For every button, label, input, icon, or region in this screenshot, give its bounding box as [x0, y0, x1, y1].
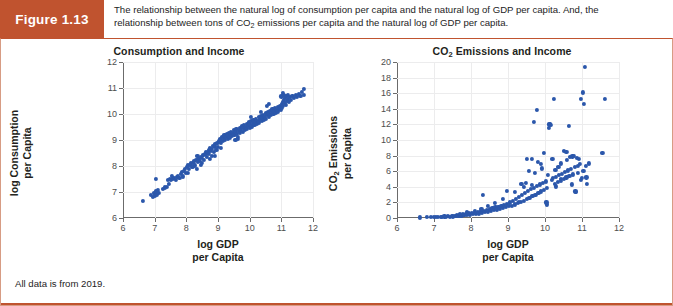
scatter-point [186, 171, 190, 175]
gridline-vertical [619, 62, 620, 218]
y-axis-tick [393, 171, 397, 172]
scatter-point [302, 86, 306, 90]
scatter-point [567, 124, 571, 128]
scatter-point [501, 197, 505, 201]
y-axis-tick-label: 14 [381, 104, 391, 114]
y-axis-tick-label: 7 [112, 187, 117, 197]
y-axis-tick-label: 10 [107, 109, 117, 119]
y-axis-tick-label: 2 [386, 197, 391, 207]
y-axis-tick [119, 114, 123, 115]
scatter-point [301, 93, 305, 97]
x-axis-title-right-line1: log GDP [487, 238, 528, 250]
y-axis-tick-label: 12 [381, 119, 391, 129]
scatter-point [218, 146, 222, 150]
scatter-point [540, 166, 544, 170]
x-axis-tick [619, 218, 620, 222]
x-axis-tick-label: 10 [245, 223, 255, 233]
scatter-point [564, 150, 568, 154]
x-axis-tick-label: 11 [277, 223, 286, 233]
x-axis-tick [250, 218, 251, 222]
scatter-point [574, 190, 578, 194]
scatter-point [603, 97, 607, 101]
gridline-vertical [313, 62, 314, 218]
y-axis-tick [393, 202, 397, 203]
scatter-point [533, 171, 537, 175]
scatter-point [527, 169, 531, 173]
scatter-point [571, 172, 575, 176]
y-axis-tick-label: 16 [381, 88, 391, 98]
y-axis-title-left: log Consumption per Capita [8, 75, 34, 231]
x-axis-tick-label: 12 [614, 223, 624, 233]
scatter-point [582, 102, 586, 106]
scatter-point [549, 123, 553, 127]
scatter-point [583, 65, 587, 69]
y-axis-tick [393, 124, 397, 125]
caption-line-2-a: relationship between tons of CO [114, 17, 251, 28]
x-axis-tick [155, 218, 156, 222]
y-axis-title-left-line1: log Consumption [8, 110, 20, 196]
charts-row: Consumption and Income log Consumption p… [1, 39, 672, 267]
y-axis-tick [393, 62, 397, 63]
y-axis-tick-label: 12 [107, 57, 117, 67]
y-axis-tick [119, 192, 123, 193]
scatter-point [550, 157, 554, 161]
x-axis-tick [186, 218, 187, 222]
scatter-point [525, 157, 529, 161]
scatter-point [180, 174, 184, 178]
plot-wrap-left: 67891011126789101112 log GDP per Capita [123, 62, 313, 218]
x-axis-tick [471, 218, 472, 222]
gridline-vertical [186, 62, 187, 218]
y-axis-title-right: CO2 Emissions per Capita [327, 76, 354, 232]
x-axis-tick [397, 218, 398, 222]
x-axis-tick-label: 9 [505, 223, 510, 233]
scatter-point [544, 179, 548, 183]
y-axis-tick-label: 8 [386, 151, 391, 161]
figure-box: Figure 1.13 The relationship between the… [0, 0, 673, 306]
scatter-point [481, 193, 485, 197]
scatter-point [524, 180, 528, 184]
scatter-point [559, 161, 563, 165]
x-axis-tick-label: 9 [215, 223, 220, 233]
scatter-point [267, 102, 271, 106]
plot-wrap-right: 024681012141618206789101112 log GDP per … [397, 62, 619, 218]
chart-title-right-subscript: 2 [448, 50, 452, 59]
scatter-point [545, 202, 549, 206]
chart-title-left: Consumption and Income [19, 45, 339, 57]
y-axis-tick [119, 140, 123, 141]
y-axis-tick [119, 62, 123, 63]
gridline-vertical [508, 62, 509, 218]
y-axis-title-right-a: CO [327, 175, 339, 191]
scatter-point [513, 190, 517, 194]
x-axis-tick-label: 6 [120, 223, 125, 233]
figure-footnote: All data is from 2019. [15, 278, 105, 289]
figure-body: Consumption and Income log Consumption p… [0, 38, 673, 306]
x-axis-tick-label: 7 [431, 223, 436, 233]
scatter-point [581, 169, 585, 173]
chart-title-right: CO2 Emissions and Income [337, 45, 667, 57]
x-axis-tick [281, 218, 282, 222]
caption-co2-subscript: 2 [251, 21, 255, 30]
scatter-point [577, 157, 581, 161]
x-axis-tick-label: 8 [184, 223, 189, 233]
x-axis-title-right: log GDP per Capita [397, 238, 619, 264]
gridline-vertical [281, 62, 282, 218]
y-axis-title-right-subscript: 2 [332, 171, 341, 175]
y-axis-tick-label: 4 [386, 182, 391, 192]
y-axis-tick [393, 78, 397, 79]
y-axis-tick [393, 187, 397, 188]
x-axis-title-right-line2: per Capita [482, 251, 533, 263]
scatter-point [535, 108, 539, 112]
y-axis-tick-label: 8 [112, 161, 117, 171]
scatter-point [552, 97, 556, 101]
scatter-point [545, 186, 549, 190]
gridline-vertical [545, 62, 546, 218]
y-axis-tick-label: 11 [108, 83, 117, 93]
x-axis-tick [313, 218, 314, 222]
x-axis-tick [218, 218, 219, 222]
plot-area-left: 67891011126789101112 [123, 62, 313, 218]
scatter-point [418, 215, 422, 219]
y-axis-tick [119, 166, 123, 167]
scatter-point [141, 199, 145, 203]
x-axis-tick-label: 6 [394, 223, 399, 233]
gridline-vertical [582, 62, 583, 218]
